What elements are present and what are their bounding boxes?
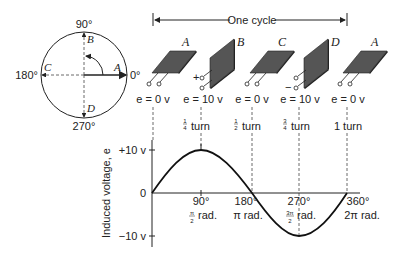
svg-text:1: 1 xyxy=(183,118,187,124)
loop-letter: D xyxy=(330,35,340,49)
svg-text:π: π xyxy=(190,210,194,216)
svg-text:2: 2 xyxy=(288,218,292,224)
loop-letter: B xyxy=(237,35,245,49)
angle-180: 180° xyxy=(15,69,38,81)
y-tick-minus10: −10 v xyxy=(119,230,147,242)
y-tick-plus10: +10 v xyxy=(119,144,147,156)
loop-letter: A xyxy=(181,35,190,49)
svg-text:2: 2 xyxy=(190,218,194,224)
svg-text:rad.: rad. xyxy=(297,209,316,221)
angle-90: 90° xyxy=(76,18,93,30)
svg-text:1: 1 xyxy=(234,118,238,124)
y-tick-zero: 0 xyxy=(140,187,146,199)
one-cycle-label: One cycle xyxy=(228,14,277,26)
voltage-label: e = 10 v xyxy=(183,93,223,105)
svg-text:3: 3 xyxy=(283,118,287,124)
turn-half: 1 2 turn xyxy=(234,118,261,132)
svg-text:2: 2 xyxy=(234,125,238,131)
polarity-plus: + xyxy=(193,71,199,83)
svg-text:turn: turn xyxy=(242,120,261,132)
svg-text:turn: turn xyxy=(191,120,210,132)
label-c: C xyxy=(44,61,52,73)
turn-labels: 1 4 turn 1 2 turn 3 4 turn 1 turn xyxy=(183,118,362,132)
label-b: B xyxy=(87,33,94,45)
x-tick-90: 90° xyxy=(193,195,210,207)
x-tick-270: 270° xyxy=(288,195,311,207)
rotation-circle: 90° 180° 0° 270° B C A D xyxy=(15,18,140,132)
one-cycle-bracket: One cycle xyxy=(153,13,347,26)
label-a: A xyxy=(113,61,121,73)
svg-text:4: 4 xyxy=(183,125,187,131)
label-d: D xyxy=(86,102,95,114)
svg-text:1 turn: 1 turn xyxy=(334,120,362,132)
generator-cycle-diagram: 90° 180° 0° 270° B C A D One cycle A e =… xyxy=(0,0,405,260)
rotation-arrow-icon xyxy=(86,56,103,75)
angle-270: 270° xyxy=(73,120,96,132)
turn-quarter: 1 4 turn xyxy=(183,118,210,132)
polarity-minus: − xyxy=(285,81,291,93)
svg-text:4: 4 xyxy=(283,125,287,131)
x-tick-360: 360° xyxy=(347,195,370,207)
voltage-label: e = 0 v xyxy=(136,93,170,105)
svg-text:3π: 3π xyxy=(286,210,293,216)
turn-three-quarter: 3 4 turn xyxy=(283,118,310,132)
voltage-label: e = 0 v xyxy=(235,93,269,105)
angle-0: 0° xyxy=(130,69,141,81)
svg-text:rad.: rad. xyxy=(198,209,217,221)
svg-text:π rad.: π rad. xyxy=(233,209,263,221)
turn-full: 1 turn xyxy=(334,120,362,132)
voltage-label: e = 10 v xyxy=(280,93,320,105)
voltage-chart: +10 v 0 −10 v Induced voltage, e 90° π 2… xyxy=(100,140,380,247)
svg-text:turn: turn xyxy=(291,120,310,132)
loop-letter: A xyxy=(370,35,379,49)
y-axis-label: Induced voltage, e xyxy=(100,148,112,238)
svg-text:2π rad.: 2π rad. xyxy=(344,209,380,221)
x-tick-180: 180° xyxy=(235,195,258,207)
loop-position-a-end: A e = 0 v xyxy=(331,35,388,105)
loop-letter: C xyxy=(278,35,287,49)
voltage-label: e = 0 v xyxy=(331,93,365,105)
